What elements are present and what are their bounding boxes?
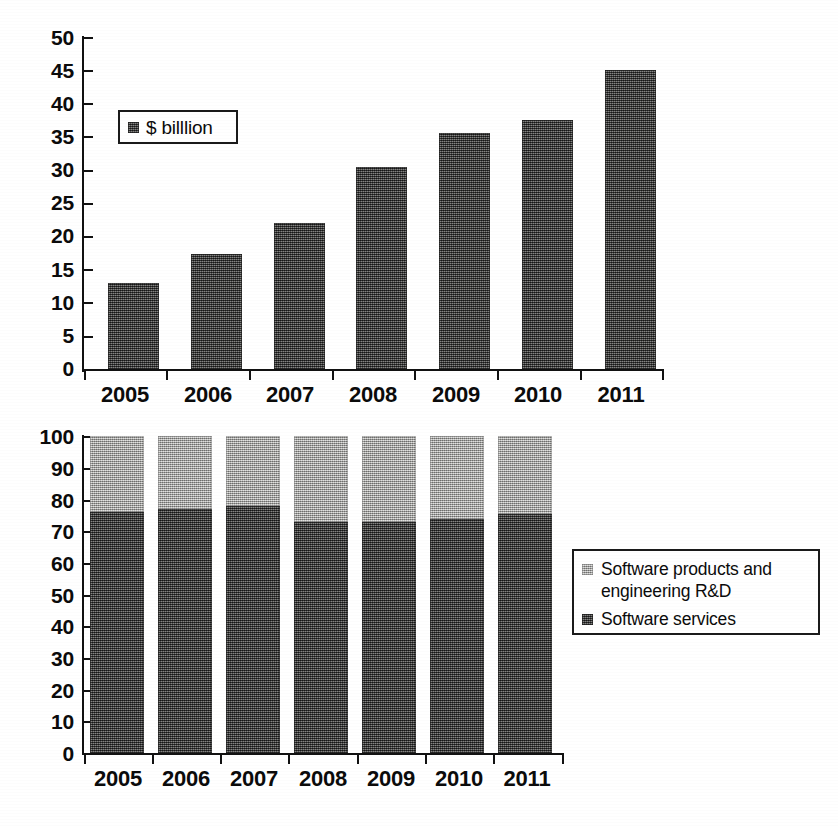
bottom-x-label-2005: 2005 bbox=[94, 766, 142, 792]
bar-products-2010 bbox=[430, 436, 484, 519]
bar-services-2008 bbox=[294, 522, 348, 753]
bottom-y-tick-30: 30 bbox=[10, 647, 74, 671]
bottom-y-tick-40: 40 bbox=[10, 615, 74, 639]
bar-products-2011 bbox=[498, 436, 552, 514]
bar-products-2006 bbox=[158, 436, 212, 509]
bar-services-2009 bbox=[362, 522, 416, 753]
bottom-x-label-2008: 2008 bbox=[299, 766, 347, 792]
bottom-y-tick-50: 50 bbox=[10, 584, 74, 608]
bottom-x-tickmark bbox=[493, 753, 495, 764]
legend-label-software-services: Software services bbox=[601, 608, 736, 630]
bottom-x-tickmark bbox=[84, 753, 86, 764]
bottom-x-label-2009: 2009 bbox=[367, 766, 415, 792]
bottom-x-tickmark bbox=[562, 753, 564, 764]
legend-label-software-products: Software products and engineering R&D bbox=[601, 558, 772, 602]
bottom-x-label-2007: 2007 bbox=[230, 766, 278, 792]
bar-products-2005 bbox=[90, 436, 144, 512]
bar-products-2008 bbox=[294, 436, 348, 522]
bottom-x-label-2010: 2010 bbox=[435, 766, 483, 792]
bottom-chart-plot-area bbox=[84, 436, 562, 753]
chart-bottom-revenue-split: 100 90 80 70 60 50 40 30 20 10 0 bbox=[0, 0, 838, 826]
bottom-x-tickmark bbox=[288, 753, 290, 764]
light-swatch-icon bbox=[582, 564, 593, 575]
bar-products-2007 bbox=[226, 436, 280, 506]
bar-services-2006 bbox=[158, 509, 212, 753]
bottom-y-tick-70: 70 bbox=[10, 520, 74, 544]
bottom-x-label-2011: 2011 bbox=[504, 766, 551, 792]
bottom-y-tick-80: 80 bbox=[10, 489, 74, 513]
bottom-y-tick-90: 90 bbox=[10, 457, 74, 481]
bottom-x-tickmark bbox=[220, 753, 222, 764]
bottom-y-tick-100: 100 bbox=[10, 425, 74, 449]
legend-entry-software-products: Software products and engineering R&D bbox=[582, 558, 812, 602]
bar-services-2011 bbox=[498, 514, 552, 753]
bottom-y-tick-0: 0 bbox=[10, 742, 74, 766]
bottom-y-tick-20: 20 bbox=[10, 679, 74, 703]
bottom-x-label-2006: 2006 bbox=[162, 766, 210, 792]
bottom-x-tickmark bbox=[425, 753, 427, 764]
dark-swatch-icon bbox=[582, 614, 593, 625]
bar-products-2009 bbox=[362, 436, 416, 522]
bottom-x-tickmark bbox=[357, 753, 359, 764]
legend-entry-software-services: Software services bbox=[582, 608, 812, 630]
bottom-chart-legend: Software products and engineering R&D So… bbox=[572, 549, 820, 635]
bottom-x-tickmark bbox=[152, 753, 154, 764]
bar-services-2007 bbox=[226, 506, 280, 753]
bar-services-2010 bbox=[430, 519, 484, 753]
figure-canvas: 50 45 40 35 30 25 20 15 10 5 0 bbox=[0, 0, 838, 826]
bottom-y-tick-10: 10 bbox=[10, 710, 74, 734]
bottom-y-tick-60: 60 bbox=[10, 552, 74, 576]
bar-services-2005 bbox=[90, 512, 144, 753]
